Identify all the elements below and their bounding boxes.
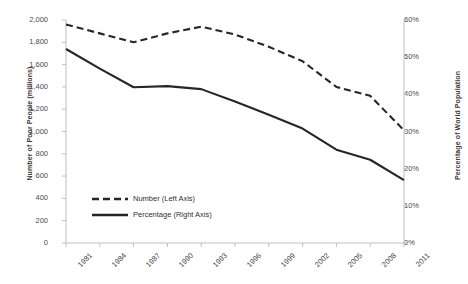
plot-area [0,0,468,284]
legend-label-number: Number (Left Axis) [133,194,195,203]
series-paths [66,24,404,180]
legend-label-percentage: Percentage (Right Axis) [133,210,212,219]
legend-marks [92,199,128,215]
axis-lines [66,20,404,243]
tick-marks [62,20,408,247]
series-percentage [66,49,404,180]
poverty-line-chart: Number of Poor People (millions) Percent… [0,0,468,284]
